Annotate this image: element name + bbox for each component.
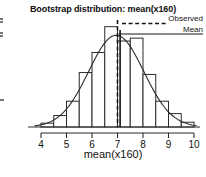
histogram-bar (67, 101, 80, 127)
histogram-bar (41, 123, 54, 127)
chart-container: Bootstrap distribution: mean(x160) 45678… (0, 0, 206, 177)
bootstrap-histogram-plot: 45678910 mean(x160) Observed Mean (0, 0, 206, 177)
x-axis-tick-label: 4 (38, 139, 44, 150)
x-axis-ticks (41, 133, 194, 138)
histogram-bar (105, 27, 118, 127)
histogram-bar (92, 52, 105, 127)
histogram-bar (156, 101, 169, 127)
legend-observed-label: Observed (168, 14, 203, 23)
legend-mean-label: Mean (183, 25, 203, 34)
x-axis-tick-label: 9 (166, 139, 172, 150)
histogram-bar (130, 38, 143, 127)
histogram-bar (79, 73, 92, 127)
chart-legend: Observed Mean (119, 14, 203, 34)
y-axis-tick-stubs (0, 19, 4, 100)
x-axis-tick-label: 5 (64, 139, 70, 150)
x-axis-tick-label: 10 (188, 139, 200, 150)
histogram-bar (54, 116, 67, 127)
x-axis-title: mean(x160) (84, 148, 143, 160)
